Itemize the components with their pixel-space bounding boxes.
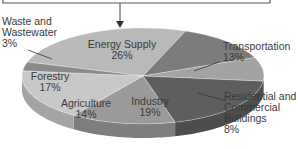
label-waste: Waste and Wastewater 3% bbox=[2, 16, 57, 49]
source-box-outline bbox=[3, 0, 270, 3]
label-forestry-pct: 17% bbox=[20, 82, 80, 93]
label-residential-pct: 8% bbox=[224, 124, 296, 135]
label-residential: Residential and Commercial Buildings 8% bbox=[224, 91, 296, 135]
label-forestry: Forestry 17% bbox=[20, 71, 80, 93]
label-agriculture-pct: 14% bbox=[50, 109, 122, 120]
label-transport-pct: 13% bbox=[223, 52, 290, 63]
label-agriculture: Agriculture 14% bbox=[50, 98, 122, 120]
label-energy-pct: 26% bbox=[82, 50, 162, 61]
label-transport: Transportation 13% bbox=[223, 41, 290, 63]
label-energy: Energy Supply 26% bbox=[82, 39, 162, 61]
label-industry: Industry 19% bbox=[117, 96, 183, 118]
arrow-head-icon bbox=[116, 21, 124, 28]
label-waste-pct: 3% bbox=[2, 38, 57, 49]
label-industry-pct: 19% bbox=[117, 107, 183, 118]
